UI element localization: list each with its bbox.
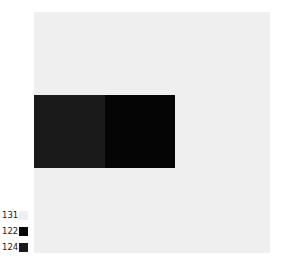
heatmap-cell-124 (34, 95, 105, 168)
legend-swatch (19, 211, 28, 220)
legend-label: 131 (2, 210, 18, 220)
legend-label: 122 (2, 226, 18, 236)
heatmap-cell-122 (105, 95, 175, 168)
legend-item-124: 124 (2, 242, 28, 252)
legend-label: 124 (2, 242, 18, 252)
legend-item-122: 122 (2, 226, 28, 236)
legend-item-131: 131 (2, 210, 28, 220)
legend-swatch (19, 243, 28, 252)
legend-swatch (19, 227, 28, 236)
